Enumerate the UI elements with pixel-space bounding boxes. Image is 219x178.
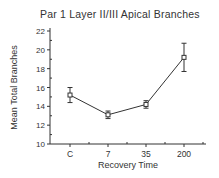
- data-point-marker: [68, 93, 72, 97]
- x-tick-label: 7: [106, 149, 111, 159]
- x-tick-label: C: [67, 149, 73, 159]
- y-tick-label: 22: [36, 27, 45, 36]
- data-point-marker: [106, 113, 110, 117]
- y-tick-label: 12: [36, 121, 45, 130]
- y-axis-label: Mean Total Branches: [9, 45, 19, 130]
- data-line: [70, 57, 184, 114]
- y-tick-label: 18: [36, 65, 45, 74]
- y-tick-label: 14: [36, 102, 45, 111]
- y-tick-label: 20: [36, 46, 45, 55]
- line-chart: 10121416182022C735200Recovery TimeMean T…: [0, 0, 219, 178]
- x-axis-label: Recovery Time: [98, 160, 158, 170]
- data-point-marker: [182, 55, 186, 59]
- y-tick-label: 10: [36, 140, 45, 149]
- data-point-marker: [144, 102, 148, 106]
- x-tick-label: 200: [177, 149, 191, 159]
- y-tick-label: 16: [36, 84, 45, 93]
- x-tick-label: 35: [141, 149, 151, 159]
